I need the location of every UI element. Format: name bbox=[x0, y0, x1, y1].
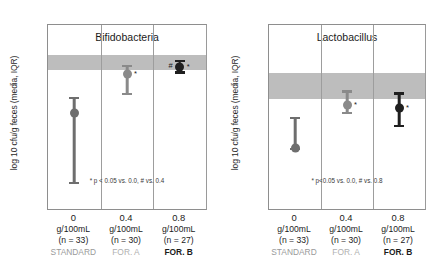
y-axis-tick-label: 0 bbox=[268, 205, 269, 211]
panel-title: Lactobacillus bbox=[269, 31, 425, 43]
x-axis-labels-lactobacillus: 0g/100mL(n = 33)STANDARD0.4g/100mL(n = 3… bbox=[268, 212, 426, 278]
y-axis-tick-label: 10 bbox=[268, 24, 269, 30]
y-axis-tick-mark bbox=[268, 153, 269, 154]
x-axis-labels-bifidobacteria: 0g/100mL(n = 33)STANDARD0.4g/100mL(n = 3… bbox=[47, 212, 207, 278]
median-marker bbox=[175, 63, 184, 72]
y-axis-tick-mark bbox=[47, 117, 48, 118]
y-axis-tick-mark bbox=[268, 190, 269, 191]
y-axis-tick-label: 12 bbox=[47, 24, 48, 30]
x-group-product: STANDARD bbox=[268, 247, 320, 259]
y-axis-tick-mark bbox=[47, 135, 48, 136]
x-group-unit: g/100mL bbox=[152, 224, 205, 236]
figure-container: log 10 cfu/g feces (media, IQR) Bifidoba… bbox=[0, 0, 436, 280]
plot-area-lactobacillus: Lactobacillus 012345678910*** p<0.05 vs.… bbox=[268, 24, 426, 210]
error-bar-cap-lower bbox=[122, 93, 132, 95]
x-group-product: FOR. A bbox=[320, 247, 372, 259]
x-group-dose: 0 bbox=[268, 212, 320, 224]
y-axis-tick-mark bbox=[268, 135, 269, 136]
x-group-product: FOR. B bbox=[372, 247, 424, 259]
x-group-unit: g/100mL bbox=[372, 224, 424, 236]
error-bar-cap-lower bbox=[394, 125, 404, 127]
x-group-product: STANDARD bbox=[47, 247, 100, 259]
median-marker bbox=[123, 69, 132, 78]
panel-bifidobacteria: log 10 cfu/g feces (media, IQR) Bifidoba… bbox=[0, 0, 218, 280]
y-axis-tick-mark bbox=[47, 153, 48, 154]
significance-marker-star: * bbox=[134, 70, 137, 78]
x-group-sample-size: (n = 33) bbox=[268, 235, 320, 247]
significance-marker-star: * bbox=[187, 64, 190, 72]
error-bar-cap-upper bbox=[290, 117, 300, 119]
significance-footnote: * p < 0.05 vs. 0.0, # vs. 0.4 bbox=[48, 177, 206, 184]
y-axis-tick-mark bbox=[47, 61, 48, 62]
x-axis-group-label: 0.8g/100mL(n = 27)FOR. B bbox=[372, 212, 424, 258]
y-axis-tick-mark bbox=[47, 98, 48, 99]
y-axis-tick-label: 2 bbox=[47, 205, 48, 211]
y-axis-tick-mark bbox=[268, 117, 269, 118]
x-axis-group-label: 0.8g/100mL(n = 27)FOR. B bbox=[152, 212, 205, 258]
x-axis-group-label: 0g/100mL(n = 33)STANDARD bbox=[268, 212, 320, 258]
x-axis-group-label: 0.4g/100mL(n = 30)FOR. A bbox=[100, 212, 153, 258]
median-marker bbox=[395, 103, 404, 112]
y-axis-tick-mark bbox=[268, 80, 269, 81]
x-group-sample-size: (n = 27) bbox=[152, 235, 205, 247]
x-group-unit: g/100mL bbox=[268, 224, 320, 236]
x-group-sample-size: (n = 33) bbox=[47, 235, 100, 247]
y-axis-tick-mark bbox=[47, 209, 48, 210]
x-group-sample-size: (n = 30) bbox=[320, 235, 372, 247]
y-axis-label: log 10 cfu/g feces (media, IQR) bbox=[230, 38, 240, 188]
x-axis-group-label: 0.4g/100mL(n = 30)FOR. A bbox=[320, 212, 372, 258]
error-bar-cap-upper bbox=[394, 92, 404, 94]
y-axis-tick-mark bbox=[268, 61, 269, 62]
x-group-dose: 0.8 bbox=[152, 212, 205, 224]
x-group-dose: 0.4 bbox=[100, 212, 153, 224]
x-group-product: FOR. A bbox=[100, 247, 153, 259]
significance-marker-star: * bbox=[406, 104, 409, 112]
x-axis-group-label: 0g/100mL(n = 33)STANDARD bbox=[47, 212, 100, 258]
panel-title: Bifidobacteria bbox=[48, 31, 206, 43]
x-group-unit: g/100mL bbox=[47, 224, 100, 236]
x-group-dose: 0.4 bbox=[320, 212, 372, 224]
error-bar-cap-upper bbox=[69, 97, 79, 99]
y-axis-tick-mark bbox=[47, 80, 48, 81]
y-axis-tick-mark bbox=[268, 209, 269, 210]
error-bar-cap-lower bbox=[342, 112, 352, 114]
x-group-dose: 0 bbox=[47, 212, 100, 224]
median-marker bbox=[70, 109, 79, 118]
panel-lactobacillus: log 10 cfu/g feces (media, IQR) Lactobac… bbox=[218, 0, 436, 280]
error-bar-cap-upper bbox=[122, 65, 132, 67]
median-marker bbox=[291, 144, 300, 153]
x-group-sample-size: (n = 27) bbox=[372, 235, 424, 247]
y-axis-tick-mark bbox=[268, 98, 269, 99]
x-group-dose: 0.8 bbox=[372, 212, 424, 224]
significance-marker-hash: # bbox=[168, 63, 172, 71]
y-axis-tick-mark bbox=[47, 43, 48, 44]
error-bar-cap-upper bbox=[342, 90, 352, 92]
significance-marker-star: * bbox=[354, 101, 357, 109]
x-group-product: FOR. B bbox=[152, 247, 205, 259]
x-group-sample-size: (n = 30) bbox=[100, 235, 153, 247]
x-group-unit: g/100mL bbox=[100, 224, 153, 236]
y-axis-tick-mark bbox=[47, 190, 48, 191]
x-group-unit: g/100mL bbox=[320, 224, 372, 236]
y-axis-tick-mark bbox=[47, 172, 48, 173]
y-axis-label: log 10 cfu/g feces (media, IQR) bbox=[9, 38, 19, 188]
y-axis-tick-mark bbox=[268, 172, 269, 173]
y-axis-tick-mark bbox=[268, 43, 269, 44]
median-marker bbox=[343, 101, 352, 110]
significance-footnote: * p<0.05 vs. 0.0, # vs. 0.8 bbox=[269, 177, 425, 184]
plot-area-bifidobacteria: Bifidobacteria 23456789101112**#* p < 0.… bbox=[47, 24, 207, 210]
